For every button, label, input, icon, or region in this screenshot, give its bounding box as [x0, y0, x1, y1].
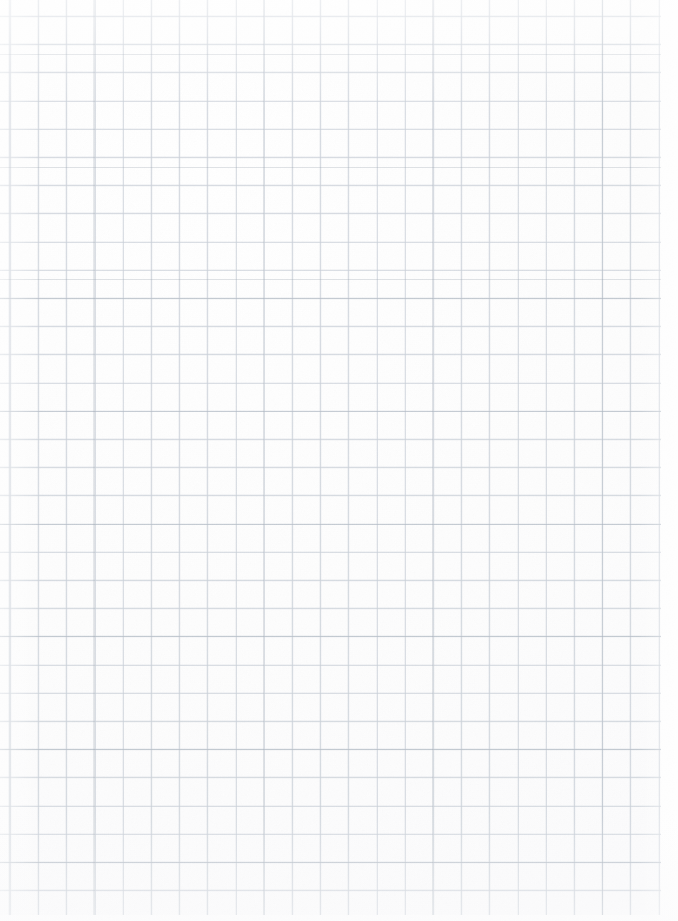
graph-paper-sheet [0, 0, 678, 921]
bottom-margin [0, 915, 678, 921]
grid-column-emphasis-lines [0, 0, 678, 921]
right-margin [661, 0, 678, 921]
